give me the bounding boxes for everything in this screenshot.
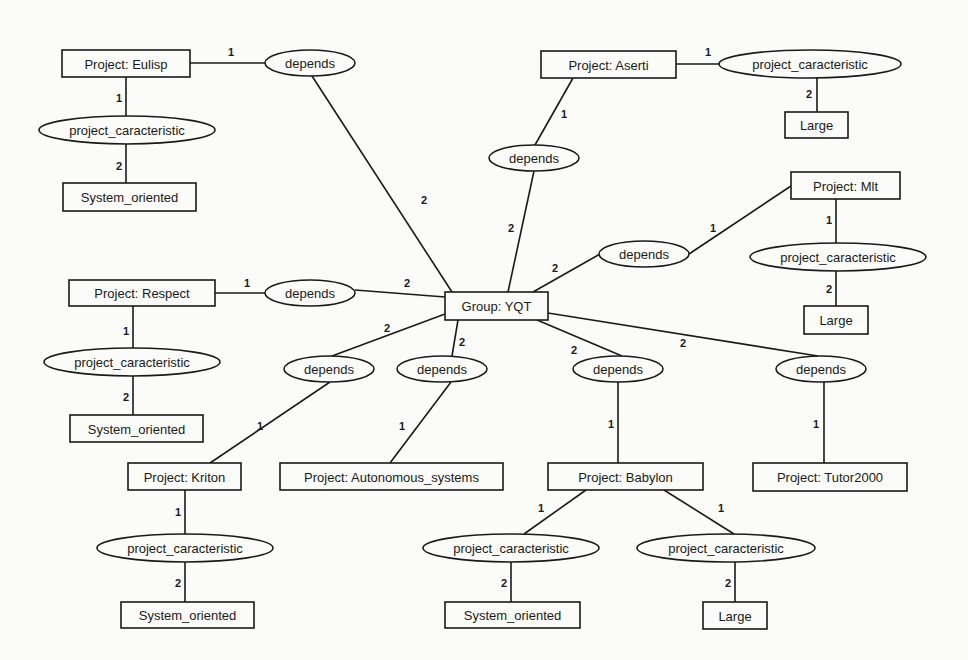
cardinality-label: 1 [813, 418, 819, 430]
connector-line [524, 490, 586, 534]
connector-line [535, 78, 573, 145]
entity-babylon_large[interactable]: Large [703, 602, 767, 629]
cardinality-label: 1 [538, 502, 544, 514]
entity-group[interactable]: Group: YQT [445, 292, 548, 320]
cardinality-label: 2 [384, 322, 390, 334]
relation-label: project_caracteristic [780, 250, 896, 265]
relation-r_babylon_pc1[interactable]: project_caracteristic [423, 534, 599, 562]
relation-r_respect_dep[interactable]: depends [265, 280, 355, 306]
relation-label: project_caracteristic [74, 355, 190, 370]
entity-tutor[interactable]: Project: Tutor2000 [753, 463, 907, 491]
cardinality-label: 2 [508, 222, 514, 234]
entity-label: System_oriented [88, 422, 186, 437]
relation-r_mlt_dep[interactable]: depends [599, 241, 689, 267]
relation-r_kriton_dep[interactable]: depends [284, 356, 374, 382]
relation-label: depends [593, 362, 643, 377]
relation-label: depends [796, 362, 846, 377]
relation-r_aserti_dep[interactable]: depends [489, 145, 579, 171]
cardinality-label: 1 [123, 325, 129, 337]
entity-babylon_so[interactable]: System_oriented [445, 602, 580, 628]
cardinality-label: 1 [561, 108, 567, 120]
relation-label: project_caracteristic [69, 123, 185, 138]
relation-label: project_caracteristic [668, 541, 784, 556]
cardinality-label: 2 [404, 277, 410, 289]
entity-babylon[interactable]: Project: Babylon [548, 463, 703, 490]
relation-label: project_caracteristic [752, 57, 868, 72]
entity-label: Large [800, 118, 833, 133]
cardinality-label: 1 [116, 92, 122, 104]
entity-label: System_oriented [139, 608, 237, 623]
edges-layer: 121212121212121221212121121212 [116, 46, 836, 602]
relation-label: depends [417, 362, 467, 377]
entity-label: Project: Respect [94, 286, 190, 301]
cardinality-label: 1 [399, 420, 405, 432]
entity-label: Project: Mlt [813, 179, 878, 194]
entity-eulisp[interactable]: Project: Eulisp [62, 50, 190, 77]
relation-r_mlt_pc[interactable]: project_caracteristic [750, 243, 926, 271]
relation-r_aserti_pc[interactable]: project_caracteristic [719, 50, 901, 78]
entity-respect[interactable]: Project: Respect [69, 280, 215, 306]
entity-label: System_oriented [464, 608, 562, 623]
entity-kriton_so[interactable]: System_oriented [121, 602, 254, 628]
entity-label: System_oriented [81, 190, 179, 205]
cardinality-label: 2 [826, 283, 832, 295]
cardinality-label: 1 [228, 46, 234, 58]
relation-r_babylon_pc2[interactable]: project_caracteristic [637, 534, 815, 562]
cardinality-label: 2 [421, 194, 427, 206]
relation-r_auto_dep[interactable]: depends [397, 356, 487, 382]
relation-label: project_caracteristic [453, 541, 569, 556]
relation-r_eulisp_pc[interactable]: project_caracteristic [39, 116, 215, 144]
connector-line [452, 320, 458, 356]
entity-aserti[interactable]: Project: Aserti [541, 51, 676, 78]
cardinality-label: 2 [680, 337, 686, 349]
cardinality-label: 2 [725, 577, 731, 589]
entity-label: Large [718, 609, 751, 624]
relation-r_eulisp_dep[interactable]: depends [265, 50, 355, 76]
entity-autonomous[interactable]: Project: Autonomous_systems [280, 463, 503, 490]
cardinality-label: 2 [175, 577, 181, 589]
cardinality-label: 1 [175, 506, 181, 518]
entity-kriton[interactable]: Project: Kriton [128, 463, 241, 490]
relation-label: depends [285, 286, 335, 301]
entity-label: Large [819, 313, 852, 328]
cardinality-label: 2 [571, 344, 577, 356]
cardinality-label: 1 [705, 46, 711, 58]
connector-line [548, 313, 818, 356]
entity-mlt[interactable]: Project: Mlt [791, 172, 900, 199]
relation-r_kriton_pc[interactable]: project_caracteristic [97, 534, 273, 562]
connector-line [332, 314, 445, 356]
connector-line [210, 382, 330, 463]
relation-label: depends [285, 56, 335, 71]
cardinality-label: 2 [459, 336, 465, 348]
entity-label: Project: Babylon [578, 470, 673, 485]
relation-r_tutor_dep[interactable]: depends [776, 356, 866, 382]
cardinality-label: 2 [501, 577, 507, 589]
cardinality-label: 2 [552, 262, 558, 274]
relation-label: depends [619, 247, 669, 262]
connector-line [689, 186, 791, 254]
entity-label: Project: Autonomous_systems [304, 470, 479, 485]
connector-line [533, 254, 600, 292]
cardinality-label: 1 [608, 418, 614, 430]
cardinality-label: 1 [244, 277, 250, 289]
er-diagram-canvas: 121212121212121221212121121212 Project: … [0, 0, 968, 660]
cardinality-label: 1 [257, 420, 263, 432]
entity-label: Project: Tutor2000 [777, 470, 883, 485]
entity-mlt_large[interactable]: Large [804, 306, 868, 334]
entity-label: Group: YQT [462, 299, 532, 314]
entity-eulisp_so[interactable]: System_oriented [63, 183, 196, 211]
entity-label: Project: Aserti [568, 58, 648, 73]
relation-label: depends [509, 151, 559, 166]
entity-label: Project: Eulisp [84, 57, 167, 72]
cardinality-label: 1 [826, 214, 832, 226]
connector-line [355, 290, 445, 297]
relation-label: project_caracteristic [127, 541, 243, 556]
cardinality-label: 1 [710, 222, 716, 234]
entity-respect_so[interactable]: System_oriented [70, 415, 203, 442]
relation-r_respect_pc[interactable]: project_caracteristic [44, 348, 220, 376]
relation-r_babylon_dep[interactable]: depends [573, 356, 663, 382]
entity-aserti_large[interactable]: Large [785, 112, 848, 138]
entity-label: Project: Kriton [144, 470, 226, 485]
nodes-layer: Project: EulispSystem_orientedProject: A… [39, 50, 926, 629]
cardinality-label: 2 [123, 391, 129, 403]
